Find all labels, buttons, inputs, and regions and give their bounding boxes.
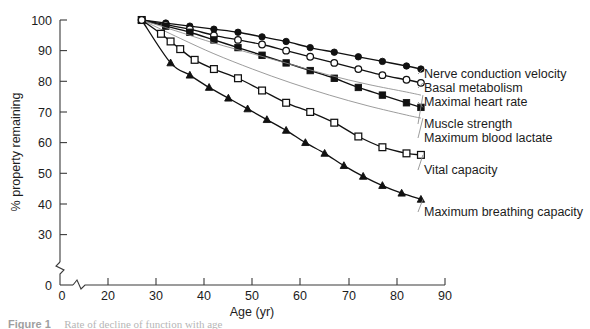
data-point-marker	[167, 38, 174, 45]
data-point-marker	[355, 54, 361, 60]
decline-of-function-chart: 100 90 80 70 60 50 40 30 0 0 20 30 40 50…	[0, 0, 590, 329]
x-tick-label-40: 40	[197, 289, 211, 303]
legend-label-maximal-heart-rate[interactable]: Maximal heart rate	[424, 95, 528, 109]
data-point-marker	[331, 60, 338, 67]
x-tick-label-50: 50	[245, 289, 259, 303]
series-line	[142, 20, 421, 118]
data-point-marker	[321, 149, 328, 156]
series-maximum-blood-lactate	[142, 20, 421, 118]
data-point-marker	[282, 126, 289, 133]
caption-number: Figure 1	[8, 318, 51, 329]
x-tick-label-70: 70	[342, 289, 356, 303]
data-point-marker	[307, 44, 313, 50]
x-tick-label-30: 30	[149, 289, 163, 303]
data-point-marker	[403, 100, 409, 106]
data-series-layer	[138, 16, 425, 202]
data-point-marker	[403, 63, 409, 69]
data-point-marker	[235, 37, 242, 44]
y-tick-label-0: 0	[45, 279, 52, 293]
data-point-marker	[331, 119, 338, 126]
data-point-marker	[359, 172, 366, 179]
legend-label-muscle-strength[interactable]: Muscle strength	[424, 117, 512, 131]
y-tick-label-100: 100	[31, 14, 52, 28]
data-point-marker	[379, 72, 386, 79]
legend-label-basal-metabolism[interactable]: Basal metabolism	[424, 81, 523, 95]
data-point-marker	[403, 76, 410, 83]
axes	[56, 20, 445, 289]
data-point-marker	[331, 49, 337, 55]
x-tick-label-90: 90	[438, 289, 452, 303]
data-point-marker	[259, 41, 266, 48]
legend-label-maximum-blood-lactate[interactable]: Maximum blood lactate	[424, 131, 553, 145]
data-point-marker	[259, 34, 265, 40]
y-tick-label-60: 60	[38, 136, 52, 150]
data-point-marker	[211, 66, 218, 73]
data-point-marker	[225, 94, 232, 101]
legend-label-maximum-breathing-capacity[interactable]: Maximum breathing capacity	[424, 205, 584, 219]
x-tick-label-60: 60	[293, 289, 307, 303]
y-axis-break-mark	[56, 262, 64, 285]
data-point-marker	[355, 66, 362, 73]
figure-caption: Figure 1 Rate of decline of function wit…	[8, 314, 578, 329]
y-axis-tick-labels: 100 90 80 70 60 50 40 30 0	[31, 14, 52, 293]
series-origin-point	[138, 17, 145, 24]
data-point-marker	[379, 144, 386, 151]
y-tick-label-70: 70	[38, 106, 52, 120]
series-nerve-conduction-velocity	[139, 17, 425, 72]
data-point-marker	[340, 162, 347, 169]
data-point-marker	[403, 150, 410, 157]
data-point-marker	[379, 92, 385, 98]
data-point-marker	[191, 56, 198, 63]
origin-marker	[138, 17, 145, 24]
data-point-marker	[307, 53, 314, 60]
data-point-marker	[283, 47, 290, 54]
data-point-marker	[263, 116, 270, 123]
legend: Nerve conduction velocityBasal metabolis…	[418, 67, 584, 219]
data-point-marker	[418, 151, 425, 158]
legend-label-vital-capacity[interactable]: Vital capacity	[424, 163, 498, 177]
tick-marks	[60, 20, 445, 285]
data-point-marker	[244, 105, 251, 112]
y-tick-label-40: 40	[38, 198, 52, 212]
x-tick-label-0: 0	[59, 289, 66, 303]
data-point-marker	[186, 71, 193, 78]
x-axis-tick-labels: 0 20 30 40 50 60 70 80 90	[59, 289, 452, 303]
data-point-marker	[205, 84, 212, 91]
data-point-marker	[177, 46, 184, 53]
data-point-marker	[283, 99, 290, 106]
data-point-marker	[235, 75, 242, 82]
data-point-marker	[355, 84, 361, 90]
data-point-marker	[283, 38, 289, 44]
legend-label-nerve-conduction-velocity[interactable]: Nerve conduction velocity	[424, 67, 567, 81]
x-tick-label-80: 80	[390, 289, 404, 303]
data-point-marker	[355, 133, 362, 140]
data-point-marker	[307, 109, 314, 116]
y-tick-label-90: 90	[38, 44, 52, 58]
y-tick-label-80: 80	[38, 75, 52, 89]
data-point-marker	[259, 87, 266, 94]
y-axis-title: % property remaining	[9, 93, 23, 212]
figure-container: 100 90 80 70 60 50 40 30 0 0 20 30 40 50…	[0, 0, 590, 329]
data-point-marker	[302, 139, 309, 146]
caption-body: Rate of decline of function with age	[64, 318, 222, 329]
x-axis-break-mark	[73, 280, 445, 289]
x-tick-label-20: 20	[101, 289, 115, 303]
y-tick-label-50: 50	[38, 167, 52, 181]
data-point-marker	[158, 30, 165, 37]
data-point-marker	[379, 58, 385, 64]
data-point-marker	[259, 52, 265, 58]
y-tick-label-30: 30	[38, 228, 52, 242]
data-point-marker	[235, 29, 241, 35]
